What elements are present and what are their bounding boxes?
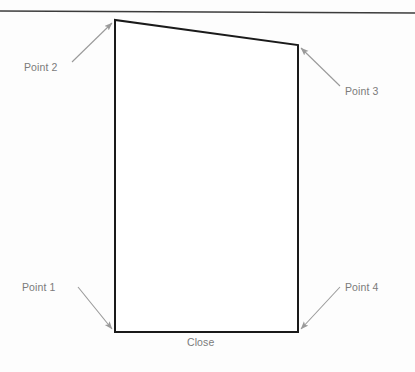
label-point-3: Point 3: [345, 85, 378, 97]
diagram-svg: [0, 0, 415, 372]
leader-line-point-2: [72, 23, 112, 62]
leader-line-point-4: [301, 287, 340, 329]
label-point-2: Point 2: [24, 61, 57, 73]
leader-line-point-3: [301, 48, 340, 86]
label-close-edge: Close: [187, 336, 214, 348]
leader-line-point-1: [78, 287, 112, 329]
quadrilateral-shape: [115, 20, 298, 332]
label-point-4: Point 4: [345, 281, 378, 293]
top-horizontal-rule: [0, 11, 415, 13]
label-point-1: Point 1: [22, 281, 55, 293]
diagram-canvas: Point 1 Point 2 Point 3 Point 4 Close: [0, 0, 415, 372]
